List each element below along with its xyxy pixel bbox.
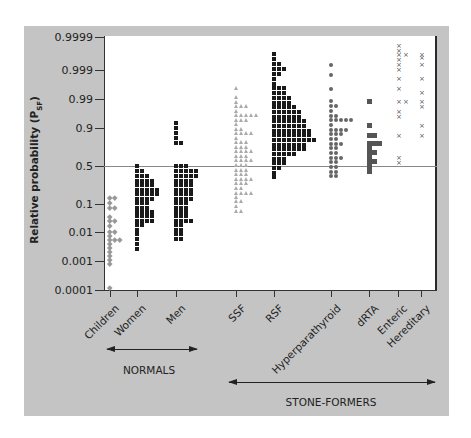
data-point <box>329 63 333 67</box>
data-point <box>174 237 178 241</box>
data-point <box>184 164 188 168</box>
y-tick-mark <box>95 166 104 167</box>
data-point <box>150 219 154 223</box>
data-point <box>244 191 248 195</box>
data-point <box>234 199 238 203</box>
data-point <box>244 181 248 185</box>
data-point <box>249 131 253 135</box>
data-point: × <box>396 67 402 74</box>
data-point <box>312 138 316 142</box>
data-point <box>145 192 149 196</box>
data-point <box>334 137 338 141</box>
data-point <box>282 119 286 123</box>
data-point <box>272 96 276 100</box>
data-point <box>140 201 144 205</box>
data-point <box>244 118 248 122</box>
data-point <box>179 192 183 196</box>
data-point <box>334 118 338 122</box>
data-point <box>329 87 333 91</box>
data-point <box>135 247 139 251</box>
data-point <box>174 183 178 187</box>
data-point <box>329 137 333 141</box>
data-point: × <box>419 104 425 111</box>
data-point <box>239 172 243 176</box>
y-tick-mark <box>95 261 104 262</box>
data-point <box>174 141 178 145</box>
data-point <box>244 104 248 108</box>
data-point <box>184 219 188 223</box>
data-point <box>329 73 333 77</box>
data-point <box>272 86 276 90</box>
y-axis-title: Relative probability (PSF) <box>28 96 43 244</box>
data-point <box>302 119 306 123</box>
data-point <box>179 169 183 173</box>
y-tick-mark <box>95 128 104 129</box>
data-point <box>145 219 149 223</box>
data-point <box>367 169 372 174</box>
data-point <box>272 77 276 81</box>
data-point <box>277 110 281 114</box>
data-point <box>334 174 338 178</box>
data-point: × <box>419 76 425 83</box>
data-point <box>174 201 178 205</box>
data-point <box>282 152 286 156</box>
data-point <box>179 164 183 168</box>
data-point <box>234 204 238 208</box>
data-point <box>234 104 238 108</box>
data-point <box>184 214 188 218</box>
data-point <box>302 147 306 151</box>
data-point <box>189 219 193 223</box>
y-tick-mark <box>95 37 104 38</box>
data-point <box>292 119 296 123</box>
data-point <box>277 166 281 170</box>
data-point <box>272 166 276 170</box>
data-point: × <box>396 99 402 106</box>
data-point <box>329 174 333 178</box>
data-point <box>282 124 286 128</box>
data-point <box>334 146 338 150</box>
data-point <box>189 169 193 173</box>
data-point <box>277 133 281 137</box>
data-point: × <box>419 62 425 69</box>
data-point <box>234 158 238 162</box>
data-point <box>287 147 291 151</box>
data-point <box>272 72 276 76</box>
data-point <box>277 67 281 71</box>
data-point <box>234 140 238 144</box>
data-point <box>277 105 281 109</box>
data-point <box>239 118 243 122</box>
data-point <box>244 131 248 135</box>
data-point <box>184 192 188 196</box>
data-point <box>282 147 286 151</box>
data-point <box>287 124 291 128</box>
data-point <box>292 133 296 137</box>
data-point <box>135 237 139 241</box>
data-point <box>277 138 281 142</box>
data-point <box>339 132 343 136</box>
data-point <box>277 152 281 156</box>
data-point <box>239 191 243 195</box>
x-tick-mark <box>137 290 138 297</box>
data-point <box>234 149 238 153</box>
data-point: × <box>396 76 402 83</box>
data-point <box>239 158 243 162</box>
data-point <box>339 142 343 146</box>
data-point <box>135 232 139 236</box>
data-point <box>292 138 296 142</box>
data-point <box>140 169 144 173</box>
data-point <box>184 183 188 187</box>
data-point <box>329 99 333 103</box>
data-point <box>174 223 178 227</box>
data-point <box>249 149 253 153</box>
y-tick-label: 0.01 <box>69 226 94 239</box>
y-tick-label: 0.1 <box>76 198 94 211</box>
data-point <box>272 62 276 66</box>
y-tick-label: 0.9 <box>76 122 94 135</box>
y-tick-label: 0.999 <box>62 64 94 77</box>
data-point: × <box>396 133 402 140</box>
data-point <box>179 174 183 178</box>
data-point <box>150 214 154 218</box>
data-point <box>135 183 139 187</box>
data-point <box>372 150 377 155</box>
data-point <box>277 119 281 123</box>
